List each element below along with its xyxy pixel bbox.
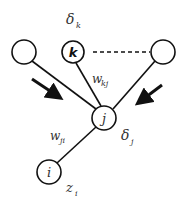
node-i-label: i xyxy=(47,165,51,180)
label-w-ji: w ji xyxy=(50,129,65,145)
label-z-i: z i xyxy=(65,180,78,198)
svg-text:z: z xyxy=(65,180,73,195)
node-j: j xyxy=(92,106,116,130)
label-delta-k: δ k xyxy=(66,11,81,30)
label-delta-j: δ j xyxy=(121,127,134,146)
node-left xyxy=(12,40,36,64)
node-k: k xyxy=(62,41,84,63)
edge-right-j xyxy=(113,61,155,109)
svg-text:δ: δ xyxy=(66,11,74,27)
svg-text:j: j xyxy=(129,137,134,146)
edge-j-i xyxy=(57,127,96,163)
left-arrow-icon xyxy=(32,79,56,95)
label-w-kj: w kj xyxy=(92,72,109,88)
svg-text:k: k xyxy=(76,21,81,30)
node-i: i xyxy=(37,160,61,184)
backprop-diagram: k j i δ k w kj w ji δ j z i xyxy=(0,0,189,207)
node-k-label: k xyxy=(69,45,79,60)
right-arrow-icon xyxy=(142,85,162,100)
svg-text:δ: δ xyxy=(121,127,129,143)
node-right xyxy=(151,40,175,64)
svg-text:i: i xyxy=(75,189,78,198)
svg-text:kj: kj xyxy=(101,79,109,88)
svg-text:ji: ji xyxy=(58,136,65,145)
